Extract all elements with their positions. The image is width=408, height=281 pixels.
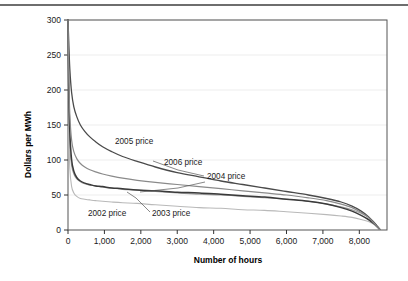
x-tick-label-4000: 4,000 (203, 236, 225, 246)
x-tick-label-5000: 5,000 (239, 236, 261, 246)
y-axis-group: 050100150200250300 (47, 15, 68, 235)
annotation-2006-price: 2006 price (164, 158, 203, 167)
y-tick-label-150: 150 (47, 120, 61, 130)
annotation-2002-price: 2002 price (88, 209, 127, 218)
x-tick-label-2000: 2,000 (130, 236, 152, 246)
annotation-2004-price: 2004 price (207, 172, 246, 181)
y-tick-label-300: 300 (47, 15, 61, 25)
y-tick-label-50: 50 (52, 190, 62, 200)
x-tick-label-8000: 8,000 (349, 236, 371, 246)
x-tick-label-1000: 1,000 (94, 236, 116, 246)
y-tick-label-0: 0 (56, 225, 61, 235)
gridlines-group (68, 20, 387, 195)
figure-container: 050100150200250300 01,0002,0003,0004,000… (0, 0, 408, 281)
annotation-2003-price: 2003 price (152, 209, 191, 218)
y-tick-label-250: 250 (47, 50, 61, 60)
price-duration-curve-chart: 050100150200250300 01,0002,0003,0004,000… (0, 0, 408, 281)
y-tick-label-100: 100 (47, 155, 61, 165)
y-axis-title: Dollars per MWh (23, 111, 33, 178)
chart-svg: 050100150200250300 01,0002,0003,0004,000… (0, 0, 408, 281)
x-tick-label-0: 0 (66, 236, 71, 246)
x-tick-label-3000: 3,000 (167, 236, 189, 246)
x-axis-group: 01,0002,0003,0004,0005,0006,0007,0008,00… (66, 230, 371, 246)
x-axis-title: Number of hours (194, 255, 263, 265)
x-tick-label-7000: 7,000 (312, 236, 334, 246)
x-tick-label-6000: 6,000 (276, 236, 298, 246)
annotation-2005-price: 2005 price (115, 137, 154, 146)
y-tick-label-200: 200 (47, 85, 61, 95)
